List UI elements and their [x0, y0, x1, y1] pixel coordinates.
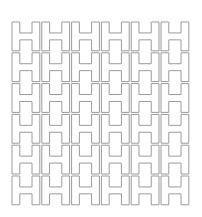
h-shape — [131, 53, 159, 82]
h-shape — [161, 145, 189, 174]
h-shape — [12, 145, 40, 174]
space-filling-curve-figure — [0, 0, 202, 217]
h-shape — [72, 84, 100, 113]
h-shape — [101, 176, 129, 205]
h-shape — [131, 114, 159, 143]
h-shape — [42, 84, 70, 113]
h-shape — [12, 176, 40, 205]
h-shape — [161, 22, 189, 51]
h-shape — [72, 22, 100, 51]
h-shape — [101, 22, 129, 51]
h-shape — [161, 84, 189, 113]
h-shape — [101, 84, 129, 113]
h-shape — [12, 84, 40, 113]
h-shape — [131, 22, 159, 51]
h-shape — [42, 114, 70, 143]
h-shape — [131, 176, 159, 205]
h-shape — [101, 114, 129, 143]
h-shape — [161, 53, 189, 82]
h-shape — [72, 145, 100, 174]
h-shape — [72, 53, 100, 82]
h-shape — [12, 53, 40, 82]
h-shape — [42, 145, 70, 174]
h-shape — [12, 22, 40, 51]
h-shape — [161, 114, 189, 143]
h-shape — [161, 176, 189, 205]
h-shape — [12, 114, 40, 143]
curve-lines — [12, 22, 189, 205]
h-shape — [131, 145, 159, 174]
h-shape — [101, 53, 129, 82]
h-shape — [42, 22, 70, 51]
h-shape — [42, 53, 70, 82]
h-shape — [131, 84, 159, 113]
h-shape — [72, 114, 100, 143]
h-shape — [42, 176, 70, 205]
h-shape — [72, 176, 100, 205]
h-shape — [101, 145, 129, 174]
